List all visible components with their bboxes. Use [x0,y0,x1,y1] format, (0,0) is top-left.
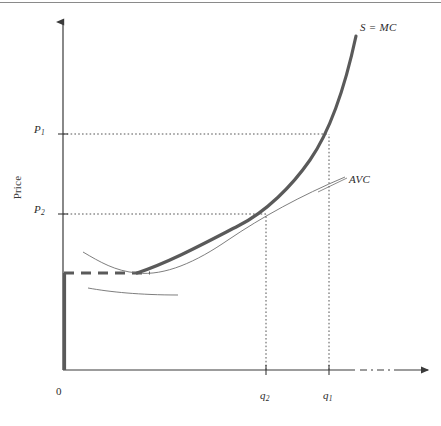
price-high-subscript: 1 [41,128,45,137]
price-low-subscript: 2 [41,208,45,217]
quantity-low-subscript: 2 [266,394,270,403]
avc-curve-label: AVC [349,174,370,185]
origin-label: 0 [56,386,62,397]
price-low-symbol: P [34,203,41,215]
figure-caption [0,416,441,426]
avc-lower-tail [88,288,178,295]
price-low-label: P2 [34,204,44,215]
avc-leader-line [318,178,347,192]
quantity-high-symbol: q [323,389,329,401]
y-axis-title: Price [12,158,23,218]
price-high-label: P1 [34,124,44,135]
quantity-low-symbol: q [260,389,266,401]
supply-curve-label: S = MC [360,22,397,33]
supply-curve-figure: Price 0 P1 P2 q2 q1 S = MC AVC [0,0,441,426]
chart-canvas [0,0,441,426]
quantity-high-subscript: 1 [329,394,333,403]
quantity-low-label: q2 [260,390,269,401]
average-variable-cost-curve [83,177,345,273]
supply-marginal-cost-curve [137,36,356,273]
price-high-symbol: P [34,123,41,135]
quantity-high-label: q1 [323,390,332,401]
